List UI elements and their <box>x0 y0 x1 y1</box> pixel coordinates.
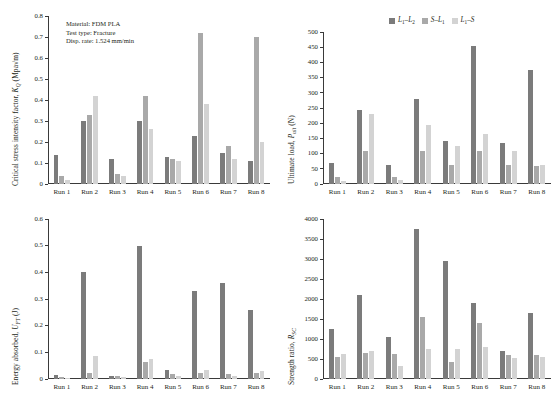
legend-label: S–L1 <box>431 16 445 25</box>
bar <box>506 355 511 379</box>
y-tick-mark <box>45 16 48 17</box>
bar <box>254 37 259 184</box>
y-tick-label: 1000 <box>290 335 318 342</box>
bar <box>204 104 209 184</box>
bar <box>341 354 346 379</box>
bar <box>414 229 419 379</box>
bar <box>81 121 86 184</box>
x-tick-label: Run 6 <box>187 188 215 196</box>
y-tick-label: 0.4 <box>15 268 43 275</box>
bar <box>369 351 374 379</box>
bar <box>426 125 431 184</box>
bar <box>357 295 362 379</box>
y-tick-mark <box>320 123 323 124</box>
bar <box>81 272 86 379</box>
annotation-block: Material: FDM PLATest type: FractureDisp… <box>66 20 134 46</box>
y-tick-label: 0.6 <box>15 215 43 222</box>
y-tick-label: 100 <box>290 149 318 156</box>
legend-item-0[interactable]: L1–L2 <box>389 16 415 25</box>
bar <box>165 370 170 379</box>
y-tick-label: 0.3 <box>15 117 43 124</box>
y-tick-label: 400 <box>290 58 318 65</box>
bar <box>471 46 476 184</box>
bar <box>260 371 265 379</box>
plot-area-panel-d: Strength ratio, RSC050010001500200025003… <box>279 209 558 409</box>
y-tick-mark <box>320 47 323 48</box>
y-tick-mark <box>45 245 48 246</box>
y-tick-mark <box>320 153 323 154</box>
bar <box>121 377 126 379</box>
x-tick-label: Run 1 <box>48 188 76 196</box>
y-axis-label: Energy absorbed, UFT (J) <box>11 308 21 385</box>
bar <box>540 165 545 184</box>
y-tick-label: 0 <box>290 375 318 382</box>
y-tick-mark <box>320 299 323 300</box>
bar <box>398 366 403 379</box>
bar <box>170 159 175 184</box>
bar <box>220 283 225 379</box>
y-tick-label: 350 <box>290 73 318 80</box>
y-tick-label: 0.8 <box>15 12 43 19</box>
bar <box>232 159 237 184</box>
bar <box>93 356 98 379</box>
bar <box>204 370 209 379</box>
x-tick-label: Run 7 <box>215 383 243 391</box>
y-tick-mark <box>320 138 323 139</box>
y-tick-mark <box>320 32 323 33</box>
y-tick-mark <box>320 92 323 93</box>
y-tick-mark <box>45 163 48 164</box>
bar <box>512 358 517 379</box>
y-tick-mark <box>45 219 48 220</box>
legend-item-2[interactable]: L1–S <box>452 16 475 25</box>
y-tick-label: 0 <box>15 375 43 382</box>
y-tick-mark <box>45 100 48 101</box>
x-tick-label: Run 4 <box>131 383 159 391</box>
bar <box>248 310 253 379</box>
bar <box>137 246 142 379</box>
plot-area-panel-a: Critical stress intensity factor, KQ (Mp… <box>0 4 279 209</box>
bar <box>329 163 334 184</box>
bar <box>398 180 403 184</box>
y-tick-mark <box>320 168 323 169</box>
bar <box>477 323 482 379</box>
bar <box>506 165 511 184</box>
bar <box>198 33 203 184</box>
legend-item-1[interactable]: S–L1 <box>422 16 445 25</box>
legend-swatch-icon <box>422 18 428 24</box>
bar <box>54 375 59 379</box>
y-tick-label: 0.7 <box>15 33 43 40</box>
y-tick-mark <box>320 219 323 220</box>
y-tick-label: 150 <box>290 134 318 141</box>
y-tick-label: 4000 <box>290 215 318 222</box>
bar <box>165 157 170 184</box>
bar <box>363 151 368 184</box>
y-tick-mark <box>45 352 48 353</box>
bar <box>59 176 64 184</box>
y-tick-mark <box>320 259 323 260</box>
y-tick-mark <box>320 339 323 340</box>
x-tick-label: Run 4 <box>409 383 438 391</box>
y-tick-label: 0.4 <box>15 96 43 103</box>
legend-label: L1–S <box>461 16 475 25</box>
bar <box>483 134 488 184</box>
chart-panel-ultimate-load: Ultimate load, Pult (N)05010015020025030… <box>279 4 558 209</box>
bar <box>335 177 340 184</box>
y-tick-label: 2500 <box>290 275 318 282</box>
bar <box>232 376 237 379</box>
chart-panel-energy-absorbed: Energy absorbed, UFT (J)00.10.20.30.40.5… <box>0 209 279 409</box>
y-tick-label: 0.1 <box>15 348 43 355</box>
bar <box>137 121 142 184</box>
bar <box>176 376 181 379</box>
x-tick-label: Run 6 <box>466 383 495 391</box>
bar <box>87 373 92 379</box>
x-tick-label: Run 8 <box>242 188 270 196</box>
bar <box>149 129 154 184</box>
y-tick-mark <box>45 325 48 326</box>
y-tick-label: 250 <box>290 104 318 111</box>
y-tick-mark <box>320 184 323 185</box>
x-tick-label: Run 2 <box>76 383 104 391</box>
x-tick-label: Run 6 <box>466 188 495 196</box>
bar <box>192 291 197 379</box>
bar <box>455 349 460 379</box>
bar <box>226 146 231 184</box>
